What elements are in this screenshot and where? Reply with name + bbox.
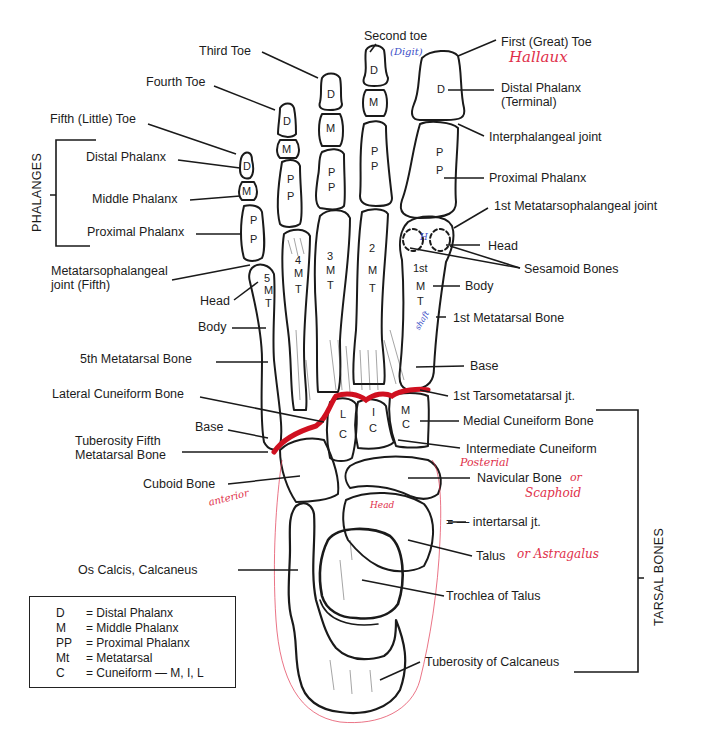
- label-sesamoid-bones: Sesamoid Bones: [524, 262, 619, 276]
- letter-lc-c: C: [339, 428, 347, 440]
- letter-second-proximal-2: P: [371, 160, 378, 172]
- legend-row: C= Cuneiform — M, I, L: [56, 666, 204, 680]
- label-great-toe-distal-line1: Distal Phalanx: [501, 81, 581, 95]
- letter-third-proximal-2: P: [328, 181, 335, 193]
- letter-second-proximal-1: P: [371, 145, 378, 157]
- label-proximal-phalanx: Proximal Phalanx: [87, 225, 184, 239]
- legend-abbr: C: [56, 666, 86, 680]
- letter-1mt-m: M: [416, 280, 425, 292]
- label-fifth-head: Head: [200, 294, 230, 308]
- label-great-toe-distal-line2: (Terminal): [501, 95, 557, 109]
- label-first-metatarsal: 1st Metatarsal Bone: [453, 311, 564, 325]
- letter-2mt-num: 2: [369, 242, 375, 254]
- handwritten-head-talus: Head: [370, 500, 394, 510]
- label-tuberosity-fifth-line1: Tuberosity Fifth: [75, 434, 161, 448]
- letter-fifth-proximal-2: P: [250, 233, 257, 245]
- label-trochlea-of-talus: Trochlea of Talus: [446, 589, 541, 603]
- trochlea-of-talus: [320, 529, 403, 619]
- label-lateral-cuneiform: Lateral Cuneiform Bone: [52, 387, 184, 401]
- first-metatarsal: [400, 216, 454, 390]
- letter-great-proximal-2: P: [436, 164, 443, 176]
- label-second-toe: Second toe: [364, 29, 427, 43]
- letter-third-distal: D: [327, 88, 335, 100]
- third-metatarsal: [315, 210, 350, 392]
- letter-2mt-m: M: [368, 264, 377, 276]
- label-distal-phalanx: Distal Phalanx: [86, 150, 166, 164]
- legend-meaning: = Metatarsal: [86, 651, 152, 665]
- letter-2mt-t: T: [369, 282, 376, 294]
- letter-third-middle: M: [326, 122, 335, 134]
- letter-3mt-t: T: [327, 279, 334, 291]
- legend-meaning: = Distal Phalanx: [86, 606, 173, 620]
- label-fifth-toe: Fifth (Little) Toe: [50, 112, 136, 126]
- sesamoid-lateral: [430, 229, 450, 251]
- legend-row: PP= Proximal Phalanx: [56, 636, 190, 650]
- letter-fifth-distal: D: [243, 160, 251, 172]
- legend-row: Mt= Metatarsal: [56, 651, 152, 665]
- letter-second-distal: D: [370, 64, 378, 76]
- letter-4mt-t: T: [295, 283, 302, 295]
- letter-ic-i: I: [372, 406, 375, 418]
- label-third-toe: Third Toe: [199, 44, 251, 58]
- handwritten-scaphoid: Scaphoid: [525, 486, 581, 500]
- letter-fifth-middle: M: [242, 185, 251, 197]
- letter-fourth-proximal-1: P: [287, 173, 294, 185]
- label-middle-phalanx: Middle Phalanx: [92, 192, 177, 206]
- label-navicular-bone: Navicular Bone: [477, 471, 562, 485]
- letter-3mt-num: 3: [327, 250, 333, 262]
- label-first-base: Base: [470, 359, 499, 373]
- letter-mc-c: C: [402, 418, 410, 430]
- legend-abbr: Mt: [56, 651, 86, 665]
- label-tuberosity-fifth-line2: Metatarsal Bone: [75, 448, 166, 462]
- legend-abbr: D: [56, 606, 86, 620]
- letter-fourth-distal: D: [283, 115, 291, 127]
- letter-lc-l: L: [340, 408, 346, 420]
- letter-4mt-num: 4: [295, 254, 301, 266]
- label-mtp-joint-fifth-line2: joint (Fifth): [51, 278, 110, 292]
- letter-1mt-t: T: [417, 295, 424, 307]
- legend-meaning: = Middle Phalanx: [86, 621, 178, 635]
- label-first-tmt-joint: 1st Tarsometatarsal jt.: [453, 389, 575, 403]
- handwritten-digit: (Digit): [390, 46, 423, 57]
- label-os-calcis: Os Calcis, Calcaneus: [78, 563, 198, 577]
- letter-great-distal: D: [437, 83, 445, 95]
- label-first-body: Body: [465, 279, 494, 293]
- letter-ic-c: C: [369, 422, 377, 434]
- letter-5mt-num: 5: [264, 272, 270, 284]
- abbreviation-legend: D= Distal Phalanx M= Middle Phalanx PP= …: [29, 596, 236, 688]
- label-great-toe-proximal: Proximal Phalanx: [489, 171, 586, 185]
- letter-1mt-first: 1st: [413, 262, 428, 274]
- legend-meaning: = Proximal Phalanx: [86, 636, 190, 650]
- second-metatarsal: [353, 209, 388, 384]
- letter-5mt-t: T: [265, 297, 272, 309]
- legend-row: M= Middle Phalanx: [56, 621, 178, 635]
- letter-second-middle: M: [369, 96, 378, 108]
- label-fourth-toe: Fourth Toe: [146, 75, 206, 89]
- handwritten-posterial: Posterial: [460, 456, 509, 469]
- tarsal-bones-group-label: TARSAL BONES: [652, 528, 666, 626]
- label-fifth-body: Body: [198, 320, 227, 334]
- third-toe-proximal: [316, 149, 345, 209]
- letter-fourth-proximal-2: P: [287, 190, 294, 202]
- handwritten-hallaux: Hallaux: [509, 48, 568, 66]
- cuboid-bone: [280, 438, 338, 502]
- letter-third-proximal-1: P: [328, 166, 335, 178]
- letter-5mt-m: M: [264, 284, 273, 296]
- label-tuberosity-calcaneus: Tuberosity of Calcaneus: [425, 655, 559, 669]
- legend-meaning: = Cuneiform — M, I, L: [86, 666, 204, 680]
- letter-fifth-proximal-1: P: [250, 214, 257, 226]
- label-fifth-metatarsal: 5th Metatarsal Bone: [80, 352, 192, 366]
- great-toe-proximal-phalanx: [401, 122, 458, 218]
- letter-great-proximal-1: P: [436, 146, 443, 158]
- handwritten-h-mark: H: [420, 232, 428, 242]
- label-medial-cuneiform: Medial Cuneiform Bone: [463, 414, 594, 428]
- label-intermediate-cuneiform: Intermediate Cuneiform: [466, 442, 597, 456]
- legend-abbr: PP: [56, 636, 86, 650]
- label-talus: Talus: [476, 549, 505, 563]
- letter-mc-m: M: [401, 404, 410, 416]
- legend-abbr: M: [56, 621, 86, 635]
- letter-fourth-middle: M: [282, 143, 291, 155]
- label-intertarsal-joint: = — intertarsal jt.: [446, 515, 541, 529]
- label-first-head: Head: [488, 239, 518, 253]
- label-mtp-joint-fifth-line1: Metatarsophalangeal: [51, 264, 168, 278]
